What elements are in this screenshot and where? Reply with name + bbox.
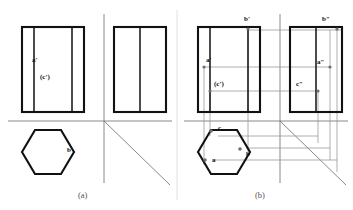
point-marker-c-top [209,129,213,133]
panel-b-label-c-side: c″ [296,80,303,88]
panel-a-caption: (a) [78,190,87,200]
panel-a-label-c-front: (c') [40,73,50,81]
figure-canvas: a' (c') b [0,0,353,210]
point-marker-b-front [246,27,249,30]
panel-a-front-view-outline [22,27,84,112]
panel-a-miter-line [104,121,170,185]
point-marker-a-front [202,65,205,68]
panel-b-caption: (b) [255,190,265,200]
panel-b-label-a-side: a″ [317,58,325,66]
point-marker-a-top [203,158,207,162]
point-marker-a-side [328,65,331,68]
point-marker-b-top [238,147,242,151]
panel-b-label-b-side: b″ [322,15,330,23]
panel-b-label-a-top: a [212,156,216,164]
panel-b-label-c-top: c [218,124,221,132]
orthographic-projection-figure: a' (c') b [0,0,353,210]
panel-b-miter-line [280,121,346,185]
point-marker-c-front [208,89,211,92]
panel-b-label-b-front: b' [244,15,250,23]
point-marker-b-side [335,27,338,30]
panel-b-label-b-top: b [246,150,250,158]
point-marker-c-side [316,89,319,92]
panel-a: a' (c') b [8,14,172,185]
panel-b-front-view-outline [198,27,260,112]
panel-b-label-a-front: a' [206,56,212,64]
panel-b-top-view-hexagon [198,130,250,174]
panel-a-label-b-top: b [67,146,71,154]
panel-b: b' b″ a' a″ (c') c″ c a b [184,14,348,185]
panel-a-label-a-front: a' [32,56,38,64]
panel-b-label-c-front: (c') [214,80,224,88]
